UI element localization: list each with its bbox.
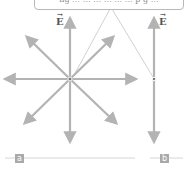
point-charge-dot <box>68 77 72 81</box>
panel-tag-a: a <box>15 154 24 163</box>
pointer-line-a <box>73 9 110 77</box>
arrow-down-right <box>70 79 115 122</box>
vector-arrow-icon: → <box>57 10 63 19</box>
vector-arrow-icon: → <box>160 10 166 19</box>
field-label-b: → E <box>159 16 167 27</box>
pointer-line-b <box>112 9 153 77</box>
arrow-up-left <box>28 38 70 79</box>
panel-tag-b: b <box>160 154 169 163</box>
arrow-down-left <box>26 79 70 122</box>
point-b-dot <box>152 77 156 81</box>
field-label-a: → E <box>56 16 64 27</box>
